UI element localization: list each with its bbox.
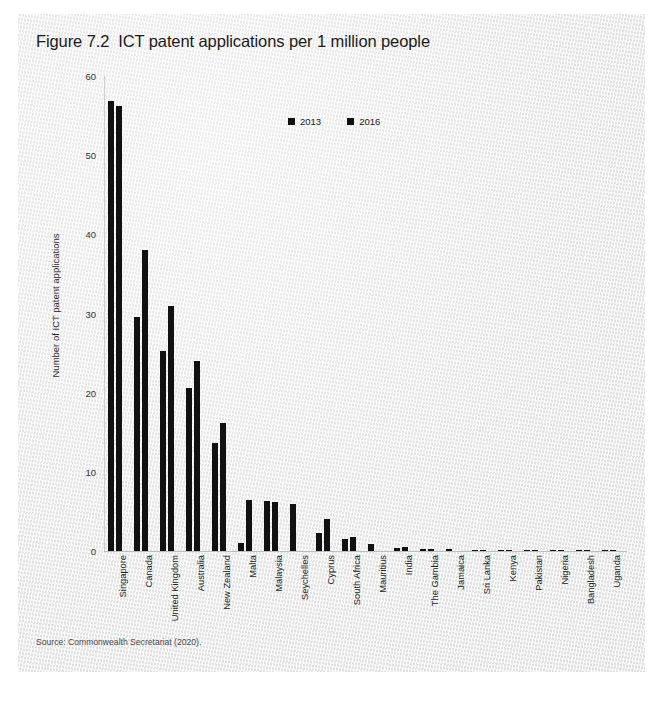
bar-2013 — [550, 550, 556, 551]
bar-group — [264, 76, 290, 551]
bar-2016 — [272, 502, 278, 551]
bar-2013 — [394, 548, 400, 551]
x-tick-label: Malta — [248, 555, 258, 578]
bar-group — [342, 76, 368, 551]
bar-2013 — [576, 550, 582, 551]
bar-2016 — [168, 306, 174, 551]
bar-2013 — [342, 539, 348, 551]
bar-2013 — [446, 549, 452, 551]
x-tick-label: The Gambia — [430, 555, 440, 606]
bar-2016 — [194, 361, 200, 551]
x-tick-label: Seychelles — [300, 555, 310, 600]
x-axis-line — [104, 551, 627, 552]
bar-2016 — [480, 550, 486, 551]
x-tick-label: Bangladesh — [586, 555, 596, 604]
bar-2016 — [532, 550, 538, 551]
bar-group — [446, 76, 472, 551]
bar-group — [394, 76, 420, 551]
x-tick-label: Australia — [196, 555, 206, 591]
y-tick-label: 0 — [62, 546, 96, 557]
x-tick-label: Nigeria — [560, 555, 570, 584]
bar-2013 — [316, 533, 322, 551]
bar-2016 — [558, 550, 564, 551]
y-tick-label: 60 — [62, 71, 96, 82]
bar-groups — [106, 76, 626, 551]
x-tick-label: Malaysia — [274, 555, 284, 592]
x-tick-label: New Zealand — [222, 555, 232, 610]
bar-2013 — [498, 550, 504, 551]
bar-2013 — [290, 504, 296, 552]
bar-group — [108, 76, 134, 551]
bar-2016 — [350, 537, 356, 551]
bar-group — [160, 76, 186, 551]
y-tick-label: 50 — [62, 150, 96, 161]
x-tick-label: Mauritius — [378, 555, 388, 593]
x-tick-label: Cyprus — [326, 555, 336, 584]
x-tick-label: United Kingdom — [170, 555, 180, 621]
bar-2013 — [264, 501, 270, 551]
bar-group — [238, 76, 264, 551]
bar-group — [134, 76, 160, 551]
x-tick-label: Singapore — [118, 555, 128, 597]
x-tick-label: India — [404, 555, 414, 575]
bar-2016 — [506, 550, 512, 551]
y-tick-label: 30 — [62, 308, 96, 319]
bar-2016 — [246, 500, 252, 551]
source-note: Source: Commonwealth Secretariat (2020). — [36, 637, 201, 647]
bar-group — [550, 76, 576, 551]
bar-group — [212, 76, 238, 551]
bar-2013 — [108, 101, 114, 551]
page-top-strip — [0, 0, 663, 12]
x-tick-label: Sri Lanka — [482, 555, 492, 594]
bar-group — [420, 76, 446, 551]
bar-group — [316, 76, 342, 551]
x-tick-label: Jamaica — [456, 555, 466, 590]
bar-2016 — [428, 549, 434, 551]
bar-2013 — [238, 543, 244, 551]
y-tick-label: 20 — [62, 387, 96, 398]
y-axis-line — [104, 76, 105, 552]
y-tick-label: 40 — [62, 229, 96, 240]
bar-group — [290, 76, 316, 551]
bar-chart: Number of ICT patent applications 010203… — [18, 14, 645, 672]
bar-2013 — [602, 550, 608, 551]
bar-2013 — [134, 317, 140, 551]
bar-group — [472, 76, 498, 551]
bar-2013 — [472, 550, 478, 551]
y-tick-label: 10 — [62, 466, 96, 477]
bar-2016 — [402, 547, 408, 551]
bar-2013 — [160, 351, 166, 551]
bar-group — [576, 76, 602, 551]
x-tick-label: South Africa — [352, 555, 362, 605]
bar-group — [498, 76, 524, 551]
bar-2013 — [186, 388, 192, 551]
y-axis-title: Number of ICT patent applications — [50, 206, 61, 406]
bar-2016 — [220, 423, 226, 551]
bar-group — [368, 76, 394, 551]
bar-2013 — [368, 544, 374, 551]
bar-2016 — [324, 519, 330, 551]
x-tick-label: Canada — [144, 555, 154, 588]
x-tick-label: Pakistan — [534, 555, 544, 591]
bar-2016 — [116, 106, 122, 551]
bar-group — [186, 76, 212, 551]
bar-2016 — [610, 550, 616, 551]
bar-group — [602, 76, 628, 551]
bar-2013 — [420, 549, 426, 551]
bar-2016 — [142, 250, 148, 551]
bar-2013 — [212, 443, 218, 551]
x-tick-label: Kenya — [508, 555, 518, 581]
x-tick-label: Uganda — [612, 555, 622, 588]
bar-group — [524, 76, 550, 551]
bar-2016 — [584, 550, 590, 551]
figure-panel: Figure 7.2 ICT patent applications per 1… — [18, 14, 645, 672]
bar-2013 — [524, 550, 530, 551]
